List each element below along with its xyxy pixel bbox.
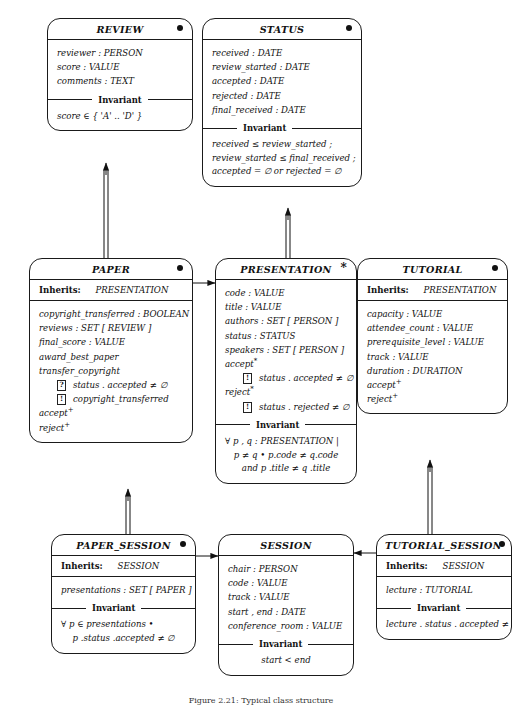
class-box-presentation[interactable]: PRESENTATION * code : VALUE title : VALU… [215, 258, 357, 484]
diagram-canvas: REVIEW reviewer : PERSON score : VALUE c… [0, 0, 522, 706]
guard-text: copyright_transferred [73, 394, 169, 404]
class-box-tutorial-session[interactable]: TUTORIAL_SESSION Inherits: SESSION lectu… [376, 534, 512, 640]
singleton-dot-icon [492, 265, 498, 271]
invariant-separator: Invariant [377, 601, 511, 615]
attribute: code : VALUE [228, 576, 344, 590]
class-header-session: SESSION [219, 535, 353, 556]
class-box-paper[interactable]: PAPER Inherits: PRESENTATION copyright_t… [29, 258, 193, 443]
connector-papersession-paper [126, 489, 130, 534]
class-body-status: received : DATE review_started : DATE ac… [203, 40, 361, 186]
attribute: attendee_count : VALUE [367, 321, 498, 335]
inherits-label: Inherits: [386, 561, 428, 571]
attribute: reviews : SET [ REVIEW ] [39, 321, 183, 335]
class-header-presentation: PRESENTATION * [216, 259, 356, 280]
guard-text: status . accepted ≠ ∅ [73, 380, 167, 390]
operation: award_best_paper [39, 350, 183, 364]
attribute: start , end : DATE [228, 605, 344, 619]
invariant-line: review_started ≤ final_received ; [212, 152, 352, 166]
invariant-line: lecture . status . accepted ≠ ∅ [386, 618, 502, 632]
abstract-star-icon: * [340, 262, 347, 274]
class-header-paper-session: PAPER_SESSION [52, 535, 195, 556]
singleton-dot-icon [177, 265, 183, 271]
attribute: review_started : DATE [212, 60, 352, 74]
inherits-row-tutorial-session: Inherits: SESSION [377, 556, 511, 577]
inherits-value: SESSION [443, 561, 485, 571]
operation-superscript: + [396, 378, 402, 386]
attribute: title : VALUE [225, 300, 347, 314]
guard-clause: !status . rejected ≠ ∅ [225, 400, 347, 414]
operation: transfer_copyright [39, 364, 183, 378]
invariant-line: start < end [228, 654, 344, 668]
class-title-paper: PAPER [92, 264, 130, 275]
invariant-line: received ≤ review_started ; [212, 138, 352, 152]
singleton-dot-icon [499, 541, 505, 547]
guard-clause: ?status . accepted ≠ ∅ [39, 378, 183, 392]
guard-bang-icon: ! [243, 373, 252, 384]
class-body-paper-session: presentations : SET [ PAPER ] Invariant … [52, 577, 195, 653]
class-body-tutorial: capacity : VALUE attendee_count : VALUE … [358, 301, 507, 413]
inherits-row-tutorial: Inherits: PRESENTATION [358, 280, 507, 301]
class-title-session: SESSION [260, 540, 312, 551]
attribute: score : VALUE [57, 60, 183, 74]
operation: accept+ [367, 378, 498, 392]
invariant-separator: Invariant [203, 121, 361, 135]
inherits-label: Inherits: [61, 561, 103, 571]
operation-superscript: * [254, 357, 258, 365]
attribute: track : VALUE [228, 590, 344, 604]
invariant-line: p .status .accepted ≠ ∅ [61, 632, 186, 646]
class-header-status: STATUS [203, 19, 361, 40]
invariant-line: p ≠ q • p.code ≠ q.code [225, 449, 347, 463]
class-box-review[interactable]: REVIEW reviewer : PERSON score : VALUE c… [47, 18, 193, 131]
operation: accept+ [39, 406, 183, 420]
figure-caption: Figure 2.21: Typical class structure [0, 696, 522, 705]
attribute: authors : SET [ PERSON ] [225, 314, 347, 328]
invariant-separator: Invariant [48, 93, 192, 107]
attribute: duration : DURATION [367, 364, 498, 378]
invariant-line: ∀ p ∈ presentations • [61, 618, 186, 632]
attribute: conference_room : VALUE [228, 619, 344, 633]
invariant-separator: Invariant [219, 637, 353, 651]
class-title-paper-session: PAPER_SESSION [76, 540, 171, 551]
guard-question-icon: ? [57, 380, 66, 391]
guard-text: status . accepted ≠ ∅ [259, 373, 353, 383]
class-header-tutorial-session: TUTORIAL_SESSION [377, 535, 511, 556]
operation-superscript: + [392, 392, 398, 400]
invariant-separator: Invariant [52, 601, 195, 615]
operation: accept* [225, 357, 347, 371]
class-header-review: REVIEW [48, 19, 192, 40]
invariant-line: score ∈ { 'A' .. 'D' } [57, 110, 183, 124]
inherits-value: SESSION [118, 561, 160, 571]
attribute: prerequisite_level : VALUE [367, 335, 498, 349]
class-box-paper-session[interactable]: PAPER_SESSION Inherits: SESSION presenta… [51, 534, 196, 654]
class-body-review: reviewer : PERSON score : VALUE comments… [48, 40, 192, 130]
operation: reject* [225, 385, 347, 399]
class-box-tutorial[interactable]: TUTORIAL Inherits: PRESENTATION capacity… [357, 258, 508, 414]
attribute: track : VALUE [367, 350, 498, 364]
guard-bang-icon: ! [243, 402, 252, 413]
guard-bang-icon: ! [57, 394, 66, 405]
class-body-paper: copyright_transferred : BOOLEAN reviews … [30, 301, 192, 442]
class-box-session[interactable]: SESSION chair : PERSON code : VALUE trac… [218, 534, 354, 676]
attribute: accepted : DATE [212, 74, 352, 88]
attribute: final_received : DATE [212, 103, 352, 117]
operation-superscript: + [64, 421, 70, 429]
singleton-dot-icon [177, 25, 183, 31]
class-box-status[interactable]: STATUS received : DATE review_started : … [202, 18, 362, 187]
connector-tutorialsession-tutorial [428, 460, 432, 534]
class-title-tutorial-session: TUTORIAL_SESSION [385, 540, 502, 551]
attribute: final_score : VALUE [39, 335, 183, 349]
attribute: received : DATE [212, 46, 352, 60]
invariant-line: ∀ p , q : PRESENTATION | [225, 435, 347, 449]
inherits-value: PRESENTATION [96, 285, 169, 295]
operation-superscript: * [250, 386, 254, 394]
connector-paper-review [104, 163, 108, 258]
invariant-line: accepted = ∅ or rejected = ∅ [212, 165, 352, 179]
inherits-row-paper-session: Inherits: SESSION [52, 556, 195, 577]
attribute: rejected : DATE [212, 89, 352, 103]
guard-clause: !status . accepted ≠ ∅ [225, 371, 347, 385]
operation-superscript: + [68, 407, 74, 415]
class-title-presentation: PRESENTATION [240, 264, 331, 275]
inherits-row-paper: Inherits: PRESENTATION [30, 280, 192, 301]
guard-clause: !copyright_transferred [39, 392, 183, 406]
attribute: lecture : TUTORIAL [386, 583, 502, 597]
